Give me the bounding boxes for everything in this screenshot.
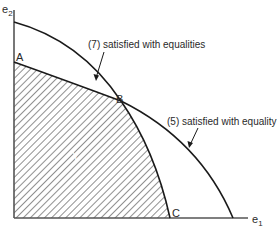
diagram-canvas: e2 e1 A B C Y (7) satisfied with equalit… bbox=[0, 0, 280, 232]
point-b-label: B bbox=[116, 93, 123, 105]
y-axis-label: e2 bbox=[2, 3, 13, 18]
annotation-constraint-5: (5) satisfied with equality bbox=[167, 116, 277, 127]
arrow-7-head bbox=[94, 74, 100, 81]
x-axis-label: e1 bbox=[252, 213, 263, 228]
point-c-label: C bbox=[172, 207, 180, 219]
arrow-5-head bbox=[188, 141, 194, 148]
shaded-region-y bbox=[14, 62, 170, 218]
point-a-label: A bbox=[16, 51, 24, 63]
region-y-label: Y bbox=[72, 150, 80, 162]
annotation-constraint-7: (7) satisfied with equalities bbox=[88, 39, 205, 50]
feasible-region-diagram: e2 e1 A B C Y (7) satisfied with equalit… bbox=[0, 0, 280, 232]
